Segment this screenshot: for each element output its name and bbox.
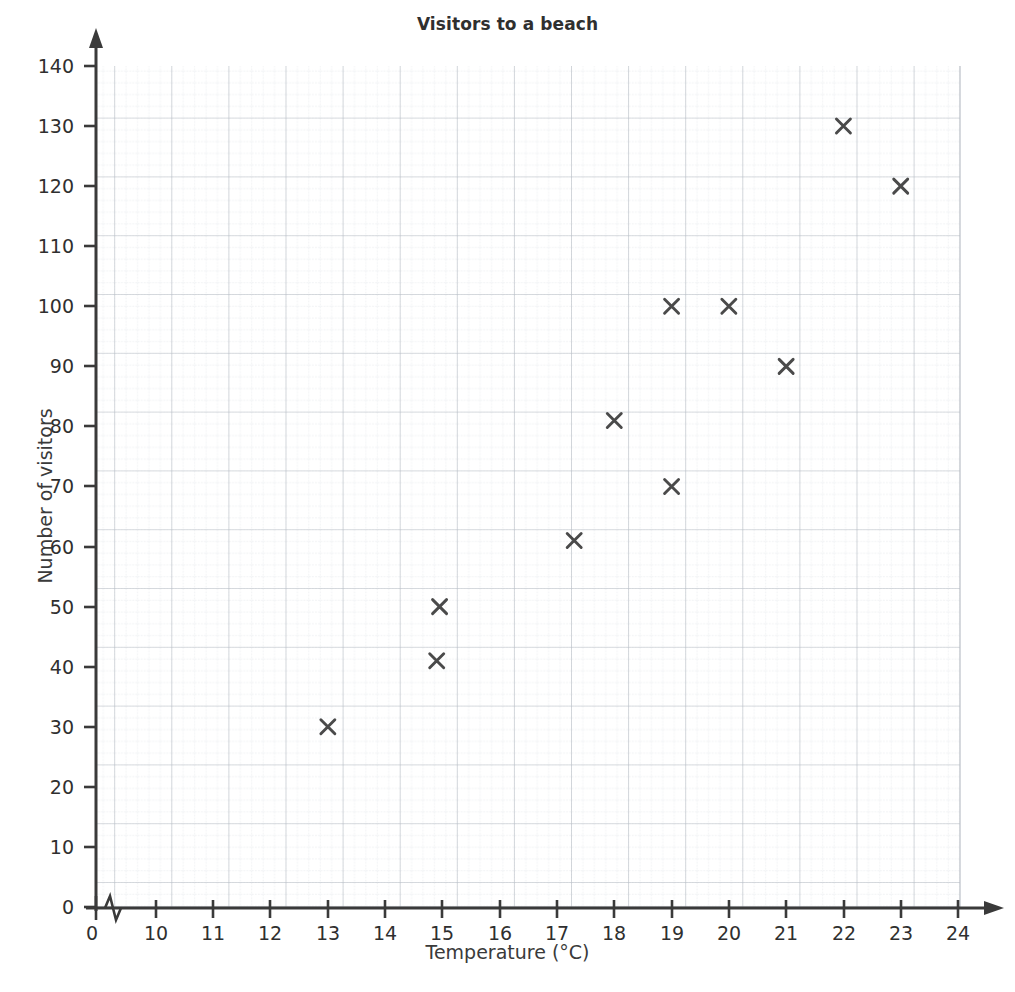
plot-area: 0 10 20 30 40 50 60 70 80 90 100 110 120… [0,0,1015,992]
y-tick-label: 20 [50,776,74,798]
grid-lines [96,66,960,907]
y-tick-label: 110 [38,235,74,257]
y-tick-label: 0 [62,896,74,918]
y-tick-label: 140 [38,55,74,77]
y-tick-label: 100 [38,295,74,317]
y-tick-label: 10 [50,836,74,858]
y-tick-label: 120 [38,175,74,197]
y-tick-label: 30 [50,716,74,738]
y-axis-label: Number of visitors [34,346,56,646]
scatter-chart: Visitors to a beach [0,0,1015,992]
y-tick-label: 40 [50,656,74,678]
x-axis-label: Temperature (°C) [0,941,1015,963]
y-tick-label: 130 [38,115,74,137]
y-tick-marks [84,66,96,907]
